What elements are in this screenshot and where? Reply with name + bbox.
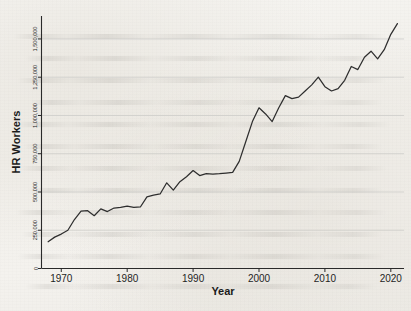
data-series-hr-workers <box>48 24 397 242</box>
y-tick-label: 1,500,000 <box>33 27 39 52</box>
y-tick-label: 0 <box>33 267 39 270</box>
x-axis-tick-labels: 197019801990200020102020 <box>50 273 402 284</box>
x-tick-label: 2020 <box>380 273 403 284</box>
y-tick-label: 1,250,000 <box>33 65 39 90</box>
y-tick-label: 250,000 <box>33 220 39 240</box>
x-tick-label: 1980 <box>116 273 139 284</box>
x-axis-title: Year <box>211 285 235 297</box>
y-tick-label: 750,000 <box>33 144 39 164</box>
x-tick-label: 2000 <box>248 273 271 284</box>
y-tick-label: 500,000 <box>33 182 39 202</box>
y-tick-label: 1,000,000 <box>33 103 39 128</box>
x-tick-label: 1990 <box>182 273 205 284</box>
x-tick-label: 1970 <box>50 273 73 284</box>
y-axis-tick-labels: 0250,000500,000750,0001,000,0001,250,000… <box>33 27 39 271</box>
chart-figure: 0250,000500,000750,0001,000,0001,250,000… <box>0 0 411 311</box>
x-tick-label: 2010 <box>314 273 337 284</box>
y-axis-title: HR Workers <box>10 111 22 174</box>
gridlines <box>42 39 405 269</box>
line-chart-plot: 0250,000500,000750,0001,000,0001,250,000… <box>0 0 411 311</box>
